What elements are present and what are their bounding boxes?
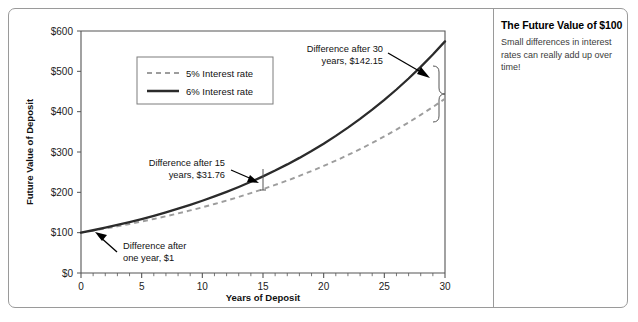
y-tick-label: $300 xyxy=(51,147,74,158)
panel-divider xyxy=(493,9,494,308)
difference-brace-30 xyxy=(433,66,445,122)
annotation-diff-30-years: Difference after 30 years, $142.15 xyxy=(307,44,430,78)
x-axis-title: Years of Deposit xyxy=(226,292,301,303)
legend-label-5-percent: 5% Interest rate xyxy=(186,68,253,79)
plot-area: $0$100$200$300$400$500$600 051015202530 … xyxy=(9,9,493,308)
side-panel: The Future Value of $100 Small differenc… xyxy=(501,19,623,74)
x-tick-label: 25 xyxy=(379,281,391,292)
y-axis-tick-labels: $0$100$200$300$400$500$600 xyxy=(51,26,74,279)
x-tick-label: 15 xyxy=(257,281,269,292)
y-tick-label: $0 xyxy=(62,268,74,279)
x-axis-ticks xyxy=(81,273,445,278)
x-tick-label: 30 xyxy=(439,281,451,292)
annotation-diff-15-line1: Difference after 15 xyxy=(149,158,225,168)
y-axis-title: Future Value of Deposit xyxy=(24,98,35,205)
annotation-diff-1y-line2: one year, $1 xyxy=(123,253,174,263)
annotation-diff-1y-line1: Difference after xyxy=(123,241,186,251)
series-line-5-percent xyxy=(81,99,445,233)
chart-figure: $0$100$200$300$400$500$600 051015202530 … xyxy=(8,8,628,308)
side-panel-body: Small differences in interest rates can … xyxy=(501,36,623,74)
legend-box xyxy=(137,57,273,104)
annotation-diff-one-year: Difference after one year, $1 xyxy=(95,232,186,263)
x-tick-label: 10 xyxy=(197,281,209,292)
annotation-diff-15-line2: years, $31.76 xyxy=(169,170,225,180)
x-tick-label: 0 xyxy=(78,281,84,292)
y-tick-label: $500 xyxy=(51,66,74,77)
x-axis-tick-labels: 051015202530 xyxy=(78,281,451,292)
annotation-diff-30-line2: years, $142.15 xyxy=(321,56,383,66)
annotation-diff-30-line1: Difference after 30 xyxy=(307,44,383,54)
y-tick-label: $100 xyxy=(51,227,74,238)
chart-svg: $0$100$200$300$400$500$600 051015202530 … xyxy=(9,9,493,308)
x-tick-label: 20 xyxy=(318,281,330,292)
legend: 5% Interest rate 6% Interest rate xyxy=(137,57,273,104)
y-tick-label: $400 xyxy=(51,106,74,117)
legend-label-6-percent: 6% Interest rate xyxy=(186,86,253,97)
annotation-diff-1y-arrow-head xyxy=(95,232,107,241)
y-tick-label: $200 xyxy=(51,187,74,198)
side-panel-title: The Future Value of $100 xyxy=(501,19,623,32)
annotation-diff-15-years: Difference after 15 years, $31.76 xyxy=(149,158,259,183)
x-tick-label: 5 xyxy=(139,281,145,292)
y-axis-ticks xyxy=(77,31,81,273)
difference-gap-15 xyxy=(260,169,266,190)
y-tick-label: $600 xyxy=(51,26,74,37)
